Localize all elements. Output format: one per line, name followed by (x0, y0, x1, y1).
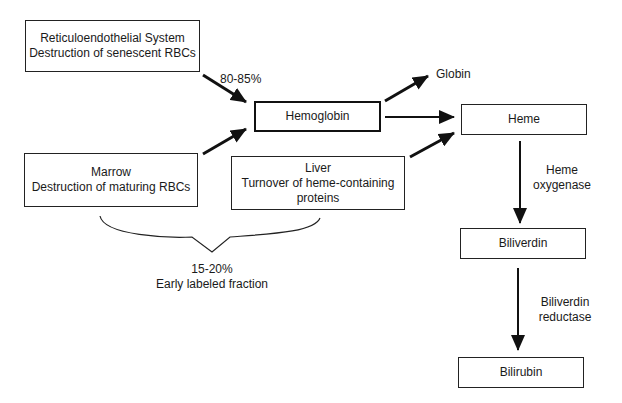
node-marrow-subtitle: Destruction of maturing RBCs (32, 180, 191, 195)
node-heme-label: Heme (508, 112, 540, 127)
arrow-hemoglobin-to-globin (385, 76, 428, 101)
label-biliverdin-reductase-line2: reductase (534, 310, 596, 325)
node-biliverdin-label: Biliverdin (499, 236, 548, 251)
node-res-title: Reticuloendothelial System (40, 31, 185, 46)
node-marrow: Marrow Destruction of maturing RBCs (24, 153, 198, 207)
arrow-marrow-to-hemoglobin (203, 129, 246, 154)
node-hemoglobin-label: Hemoglobin (285, 109, 349, 124)
label-early-fraction: Early labeled fraction (142, 277, 282, 292)
node-liver-subtitle-cont: proteins (297, 191, 340, 206)
node-res-subtitle: Destruction of senescent RBCs (29, 46, 196, 61)
label-heme-oxygenase-line2: oxygenase (532, 178, 592, 193)
node-liver-title: Liver (305, 161, 331, 176)
node-heme: Heme (461, 104, 587, 135)
node-bilirubin-label: Bilirubin (500, 365, 543, 380)
node-reticuloendothelial-system: Reticuloendothelial System Destruction o… (25, 20, 200, 72)
label-biliverdin-reductase-line1: Biliverdin (534, 295, 596, 310)
arrow-liver-to-heme (410, 133, 454, 157)
node-hemoglobin: Hemoglobin (254, 101, 381, 132)
label-early-percent: 15-20% (162, 262, 262, 277)
node-biliverdin: Biliverdin (460, 228, 586, 259)
label-heme-oxygenase: Heme oxygenase (532, 163, 592, 193)
node-liver-subtitle: Turnover of heme-containing (242, 176, 395, 191)
label-globin: Globin (436, 67, 471, 82)
label-heme-oxygenase-line1: Heme (532, 163, 592, 178)
node-liver: Liver Turnover of heme-containing protei… (231, 156, 405, 210)
label-res-fraction: 80-85% (220, 72, 261, 87)
node-marrow-title: Marrow (91, 165, 131, 180)
label-biliverdin-reductase: Biliverdin reductase (534, 295, 596, 325)
node-bilirubin: Bilirubin (458, 357, 584, 388)
brace-early-labeled (100, 216, 320, 252)
